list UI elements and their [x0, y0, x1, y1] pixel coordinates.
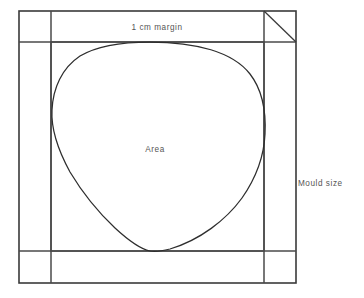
mould-size-area-diagram: 1 cm margin Area Mould size	[0, 0, 364, 298]
mould-diagram-container: 1 cm margin Area Mould size	[0, 0, 364, 298]
mould-size-label: Mould size	[298, 179, 343, 188]
corner-bevel-diagonal-icon	[264, 11, 296, 42]
area-label: Area	[145, 145, 165, 154]
margin-label: 1 cm margin	[131, 23, 182, 32]
